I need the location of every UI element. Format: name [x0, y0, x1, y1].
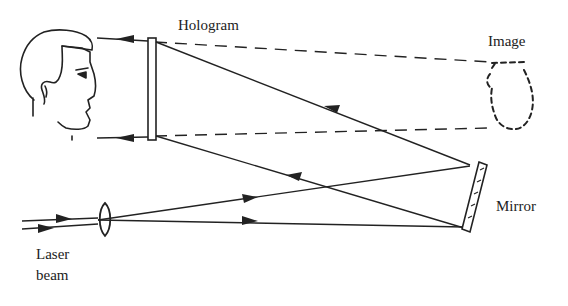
viewer-head-icon: [21, 30, 96, 140]
arrow-laser-2: [38, 224, 54, 233]
mirror-icon: [462, 162, 487, 232]
arrow-viewer-bottom: [116, 134, 134, 142]
laser-label-line1: Laser: [36, 246, 69, 262]
mirror-label: Mirror: [496, 198, 536, 214]
arrow-viewer-top: [116, 35, 134, 43]
image-label: Image: [488, 33, 526, 49]
arrow-laser-1: [56, 214, 72, 223]
hologram-label: Hologram: [178, 17, 239, 33]
viewer-rays: [97, 38, 148, 138]
virtual-image-vase-icon: [487, 62, 533, 129]
arrow-ref-bottom: [286, 172, 302, 181]
hologram-diagram: Hologram Image Mirror Laser beam: [0, 0, 568, 306]
arrow-mid-upper: [242, 194, 258, 203]
hologram-plate: [148, 38, 156, 140]
virtual-rays: [155, 42, 490, 136]
laser-label-line2: beam: [36, 267, 69, 283]
